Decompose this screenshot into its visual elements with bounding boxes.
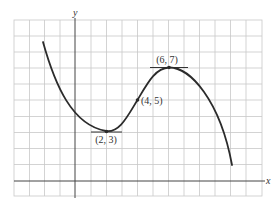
x-axis-label: x (265, 175, 271, 186)
label-inflection: (4, 5) (141, 95, 163, 107)
label-max: (6, 7) (156, 54, 178, 66)
y-axis-label: y (72, 7, 78, 18)
point-max-marker (167, 66, 171, 70)
function-graph: y x (2, 3) (4, 5) (6, 7) (0, 0, 280, 202)
label-min: (2, 3) (95, 134, 117, 146)
point-inflection-marker (136, 98, 140, 102)
point-min-marker (105, 130, 109, 134)
grid (14, 20, 262, 196)
